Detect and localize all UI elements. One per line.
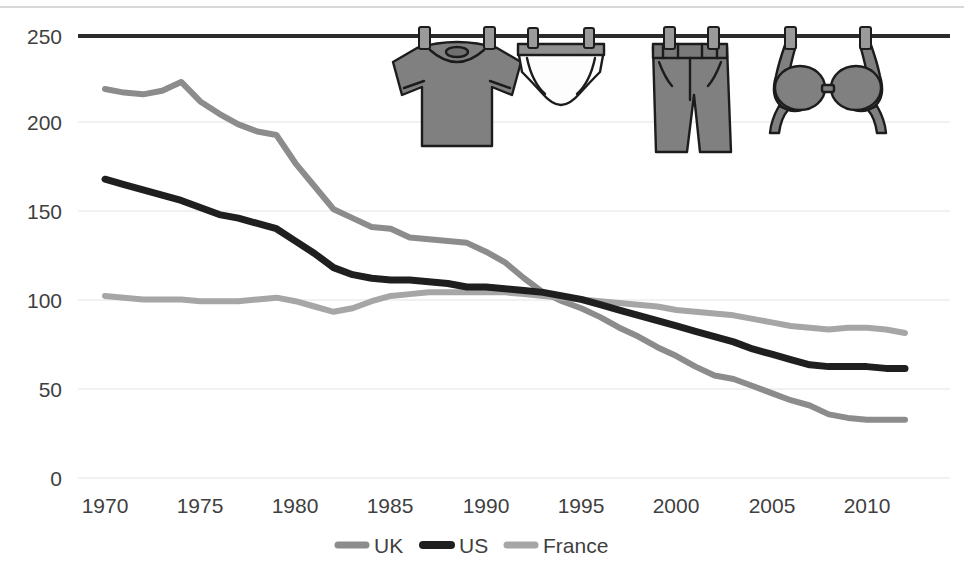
clothespin-icon bbox=[708, 27, 719, 49]
x-axis-labels: 1970 1975 1980 1985 1990 1995 2000 2005 … bbox=[82, 494, 891, 517]
underwear-briefs-icon bbox=[518, 28, 604, 105]
xtick-label-1980: 1980 bbox=[272, 494, 319, 517]
series-line-us bbox=[105, 179, 905, 368]
legend-label-us: US bbox=[459, 534, 488, 557]
ytick-label-50: 50 bbox=[39, 378, 62, 401]
xtick-label-1975: 1975 bbox=[177, 494, 224, 517]
clothespin-icon bbox=[528, 28, 538, 48]
chart-canvas: 250 200 150 100 50 0 1970 1975 1980 1985… bbox=[0, 0, 964, 582]
xtick-label-2000: 2000 bbox=[653, 494, 700, 517]
clothespin-icon bbox=[860, 27, 871, 49]
y-axis-labels: 250 200 150 100 50 0 bbox=[27, 25, 62, 490]
chart-legend: UK US France bbox=[338, 534, 608, 557]
bra-icon bbox=[770, 27, 886, 133]
ytick-label-150: 150 bbox=[27, 200, 62, 223]
ytick-label-0: 0 bbox=[50, 467, 62, 490]
xtick-label-1995: 1995 bbox=[558, 494, 605, 517]
clothespin-icon bbox=[785, 27, 796, 49]
clothespin-icon bbox=[484, 27, 495, 49]
jeans-icon bbox=[653, 27, 731, 152]
line-chart: 250 200 150 100 50 0 1970 1975 1980 1985… bbox=[0, 0, 964, 582]
xtick-label-2010: 2010 bbox=[844, 494, 891, 517]
xtick-label-1970: 1970 bbox=[82, 494, 129, 517]
xtick-label-1985: 1985 bbox=[367, 494, 414, 517]
ytick-label-250: 250 bbox=[27, 25, 62, 48]
series-line-france bbox=[105, 292, 905, 333]
clothespin-icon bbox=[419, 27, 430, 49]
ytick-label-200: 200 bbox=[27, 111, 62, 134]
t-shirt-icon bbox=[393, 27, 521, 146]
xtick-label-2005: 2005 bbox=[749, 494, 796, 517]
clothespin-icon bbox=[584, 28, 594, 48]
ytick-label-100: 100 bbox=[27, 289, 62, 312]
xtick-label-1990: 1990 bbox=[463, 494, 510, 517]
clothespin-icon bbox=[664, 27, 675, 49]
series-line-uk bbox=[105, 82, 905, 420]
legend-label-france: France bbox=[543, 534, 608, 557]
data-series-group bbox=[105, 82, 905, 420]
legend-label-uk: UK bbox=[374, 534, 403, 557]
